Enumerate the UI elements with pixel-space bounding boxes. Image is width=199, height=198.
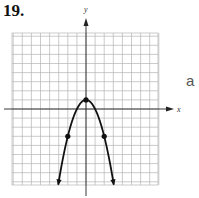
data-point xyxy=(102,134,107,139)
svg-text:x: x xyxy=(176,105,181,114)
parabola-graph: xy xyxy=(0,0,199,198)
svg-text:y: y xyxy=(83,5,88,14)
axes: xy xyxy=(4,5,181,196)
data-point xyxy=(83,97,88,102)
data-point xyxy=(65,134,70,139)
